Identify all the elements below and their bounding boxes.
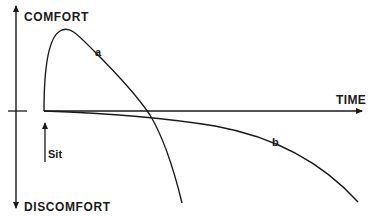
discomfort-label: DISCOMFORT	[24, 200, 111, 214]
curve-b	[44, 111, 358, 202]
time-label: TIME	[336, 93, 366, 107]
curve-a-label: a	[95, 46, 102, 58]
comfort-label: COMFORT	[24, 10, 89, 24]
comfort-time-diagram: COMFORT DISCOMFORT TIME Sit a b	[0, 0, 377, 216]
curve-b-label: b	[272, 136, 279, 148]
sit-label: Sit	[48, 148, 62, 160]
curve-a	[44, 29, 182, 203]
